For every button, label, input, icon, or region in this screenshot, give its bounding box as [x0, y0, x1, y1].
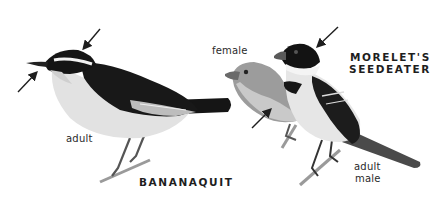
bananaquit-bird [18, 29, 231, 182]
seedeater-male-age-label: adult [354, 161, 381, 173]
arrow-icon [18, 73, 36, 92]
bananaquit-title: BANANAQUIT [139, 176, 233, 189]
seedeater-male-sex-label: male [355, 173, 381, 185]
arrow-icon [318, 27, 338, 46]
seedeater-title-line2: SEEDEATER [349, 63, 431, 76]
bananaquit-age-label: adult [66, 133, 93, 145]
arrow-icon [84, 29, 100, 48]
seedeater-female-label: female [212, 45, 248, 57]
field-guide-illustration: adult BANANAQUIT female MORELET'S SEEDEA… [0, 0, 441, 205]
